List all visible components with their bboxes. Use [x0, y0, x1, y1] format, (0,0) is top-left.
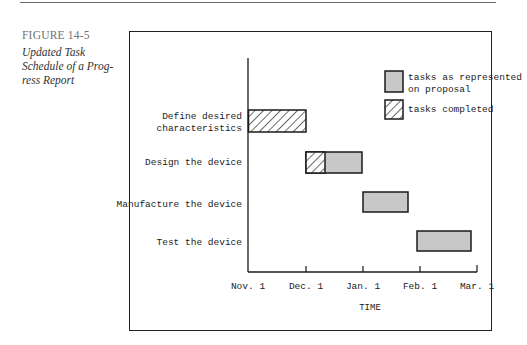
task-label: characteristics	[156, 123, 242, 134]
x-tick-labels: Nov. 1 Dec. 1 Jan. 1 Feb. 1 Mar. 1	[231, 281, 495, 292]
x-tick-label: Nov. 1	[231, 281, 266, 292]
legend-swatch-completed	[385, 100, 403, 119]
x-axis-title: TIME	[359, 303, 381, 313]
task-bars	[249, 110, 472, 251]
task-label: Test the device	[156, 237, 242, 248]
x-axis-ticks	[306, 265, 477, 272]
task-label: Define desired	[162, 111, 242, 122]
gantt-chart: Nov. 1 Dec. 1 Jan. 1 Feb. 1 Mar. 1 TIME …	[0, 0, 527, 345]
task-label: Design the device	[145, 157, 242, 168]
bar-completed-define	[249, 110, 307, 132]
x-tick-label: Jan. 1	[346, 281, 381, 292]
bar-proposal-manufacture	[363, 192, 408, 212]
bar-completed-design	[306, 152, 325, 173]
task-label: Manufacture the device	[117, 199, 243, 210]
task-labels: Define desired characteristics Design th…	[117, 111, 243, 248]
legend-label: tasks completed	[408, 104, 494, 115]
legend-label: tasks as represented	[408, 72, 522, 83]
legend-swatch-proposal	[385, 71, 403, 92]
x-tick-label: Mar. 1	[460, 281, 495, 292]
x-tick-label: Dec. 1	[289, 281, 324, 292]
x-tick-label: Feb. 1	[403, 281, 438, 292]
bar-proposal-test	[417, 231, 471, 251]
legend-label: on proposal	[408, 84, 471, 95]
legend: tasks as represented on proposal tasks c…	[385, 71, 522, 119]
